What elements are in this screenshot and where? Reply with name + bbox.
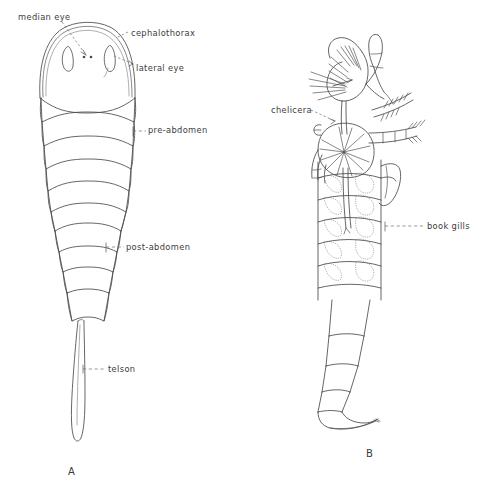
panel-caption-b: B [366, 448, 373, 459]
anatomy-plate: median eye cephalothorax lateral eye pre… [0, 0, 493, 498]
label-post-abdomen: post-abdomen [126, 243, 190, 251]
label-median-eye: median eye [18, 13, 70, 21]
panel-b-drawing [309, 34, 425, 429]
label-lateral-eye: lateral eye [136, 64, 184, 72]
panel-a-drawing [40, 22, 146, 441]
anatomy-line-art [0, 0, 493, 498]
label-chelicera: chelicera [271, 106, 312, 114]
panel-caption-a: A [68, 466, 75, 477]
label-book-gills: book gills [427, 222, 470, 230]
label-pre-abdomen: pre-abdomen [148, 126, 208, 134]
label-telson: telson [108, 365, 135, 373]
label-cephalothorax: cephalothorax [131, 29, 195, 37]
